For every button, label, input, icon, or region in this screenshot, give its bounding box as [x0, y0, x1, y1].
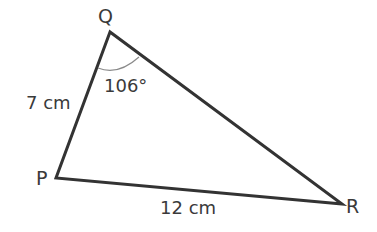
- vertex-label-r: R: [346, 195, 359, 217]
- side-label-pq: 7 cm: [26, 92, 71, 113]
- triangle-pqr: [56, 32, 342, 204]
- angle-arc-q: [98, 57, 139, 70]
- vertex-label-p: P: [36, 167, 47, 189]
- angle-label-q: 106°: [104, 75, 147, 96]
- side-label-pr: 12 cm: [160, 197, 216, 218]
- vertex-label-q: Q: [98, 5, 113, 27]
- triangle-diagram: Q P R 7 cm 12 cm 106°: [0, 0, 377, 232]
